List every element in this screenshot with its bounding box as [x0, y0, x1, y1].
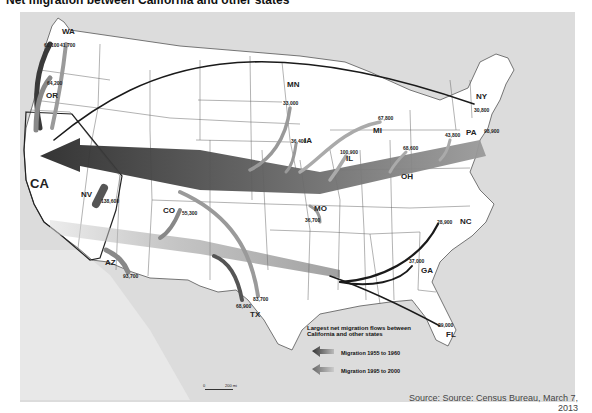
state-label-mi: MI	[373, 126, 382, 135]
state-label-pa: PA	[466, 128, 477, 137]
scale-start: 0	[203, 383, 205, 388]
state-label-co: CO	[163, 206, 175, 215]
legend-title-line2: California and other states	[307, 331, 447, 337]
flow-value-mo-1955: 36,700	[305, 217, 320, 223]
legend-item-1995: Migration 1995 to 2000	[307, 366, 447, 376]
flow-value-mi-1955: 67,800	[378, 115, 393, 121]
state-label-ca: CA	[30, 176, 49, 191]
legend-label-1995: Migration 1995 to 2000	[341, 368, 400, 374]
flow-value-or-1995: 64,200	[47, 80, 62, 86]
state-label-ny: NY	[476, 92, 487, 101]
us-migration-map	[0, 0, 592, 413]
legend-label-1955: Migration 1955 to 1960	[341, 350, 400, 356]
flow-value-nc-1995: 28,900	[437, 219, 452, 225]
flow-value-ga-1995: 37,000	[409, 258, 424, 264]
dark-arrow-icon	[307, 348, 329, 358]
map-legend: Largest net migration flows between Cali…	[307, 325, 447, 376]
source-citation: Source: Source: Census Bureau, March 7, …	[409, 393, 578, 413]
state-label-nv: NV	[81, 190, 92, 199]
legend-item-1955: Migration 1955 to 1960	[307, 348, 447, 358]
state-label-wa: WA	[62, 27, 75, 36]
state-label-mo: MO	[314, 204, 327, 213]
source-line1: Source: Source: Census Bureau, March 7,	[409, 393, 578, 403]
state-label-az: AZ	[105, 258, 116, 267]
scale-line	[205, 389, 233, 390]
state-label-oh: OH	[401, 172, 413, 181]
state-label-fl: FL	[446, 330, 456, 339]
state-label-mn: MN	[287, 80, 299, 89]
state-label-il: IL	[346, 154, 353, 163]
flow-value-mn-1955: 33,000	[283, 100, 298, 106]
flow-value-pa-1955: 43,800	[445, 132, 460, 138]
flow-value-ia-1955: 36,400	[291, 138, 306, 144]
flow-value-wa-1955: 60,100	[44, 42, 59, 48]
flow-value-ny-1955: 30,800	[474, 107, 489, 113]
source-line2: 2013	[409, 403, 578, 413]
light-arrow-icon	[307, 366, 329, 376]
flow-value-nv-1995: 138,600	[101, 198, 119, 204]
flow-value-ny-1995: 98,900	[484, 128, 499, 134]
state-label-ga: GA	[421, 266, 433, 275]
flow-value-tx-1955: 68,900	[236, 303, 251, 309]
flow-value-az-1995: 93,700	[123, 273, 138, 279]
flow-value-il-1955: 100,900	[340, 149, 358, 155]
flow-value-tx-1995: 83,700	[253, 296, 268, 302]
flow-value-co-1995: 55,300	[182, 210, 197, 216]
state-label-tx: TX	[250, 310, 260, 319]
flow-value-wa-1995: 41,700	[60, 42, 75, 48]
state-label-or: OR	[46, 91, 58, 100]
flow-value-oh-1955: 68,600	[403, 145, 418, 151]
scale-end: 200 mi	[225, 383, 237, 388]
state-label-nc: NC	[460, 217, 472, 226]
